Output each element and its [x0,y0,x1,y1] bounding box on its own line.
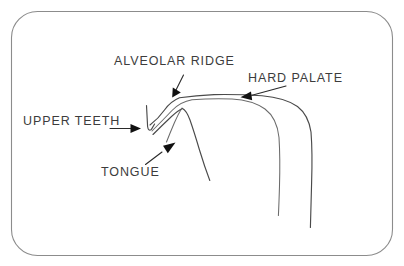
diagram-canvas: ALVEOLAR RIDGE HARD PALATE UPPER TEETH T… [0,0,404,266]
label-upper-teeth: UPPER TEETH [23,114,120,128]
label-alveolar-ridge: ALVEOLAR RIDGE [114,54,235,68]
label-hard-palate: HARD PALATE [248,71,343,85]
label-tongue: TONGUE [101,165,160,179]
vocal-tract-diagram: ALVEOLAR RIDGE HARD PALATE UPPER TEETH T… [0,0,404,266]
diagram-background [0,0,404,266]
